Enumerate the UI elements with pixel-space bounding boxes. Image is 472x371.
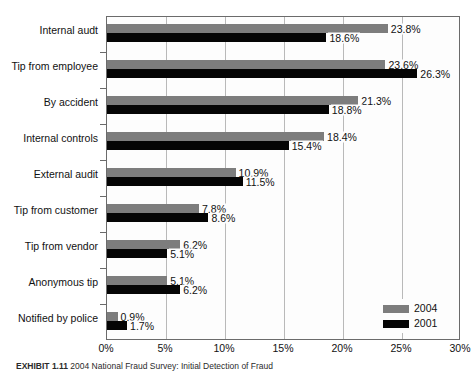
bar-value-label: 23.8% — [390, 23, 422, 34]
chart-legend: 20042001 — [379, 299, 449, 333]
legend-label-2001: 2001 — [414, 318, 437, 329]
legend-label-2004: 2004 — [414, 303, 437, 314]
bar-value-label: 11.5% — [245, 176, 276, 187]
bar-2004-4: 10.9% — [107, 168, 236, 177]
chart-category-group: 21.3%18.8% — [107, 89, 459, 125]
legend-item-2004: 2004 — [383, 302, 445, 315]
bar-2004-5: 7.8% — [107, 204, 199, 213]
category-label-7: Anonymous tip — [29, 276, 98, 288]
bar-2004-1: 23.6% — [107, 60, 385, 69]
x-axis-labels: 0%5%10%15%20%25%30% — [106, 342, 460, 356]
bar-value-label: 18.6% — [328, 32, 360, 43]
y-axis-tick — [100, 88, 106, 89]
caption-text: 2004 National Fraud Survey: Initial Dete… — [70, 361, 273, 371]
bar-value-label: 15.4% — [291, 140, 323, 151]
x-tick-label-4: 20% — [331, 342, 352, 354]
y-axis-labels: Internal audtTip from employeeBy acciden… — [0, 16, 102, 340]
category-label-4: External audit — [34, 168, 98, 180]
x-tick-label-5: 25% — [390, 342, 411, 354]
chart-category-group: 23.6%26.3% — [107, 53, 459, 89]
bar-value-label: 8.6% — [210, 212, 236, 223]
y-axis-tick — [100, 268, 106, 269]
bar-value-label: 21.3% — [360, 95, 392, 106]
bar-2001-0: 18.6% — [107, 33, 326, 42]
chart-category-group: 6.2%5.1% — [107, 233, 459, 269]
y-axis-tick — [100, 52, 106, 53]
bar-2004-2: 21.3% — [107, 96, 358, 105]
category-label-1: Tip from employee — [11, 60, 98, 72]
y-axis-tick — [100, 160, 106, 161]
category-label-3: Internal controls — [23, 132, 98, 144]
y-axis-tick — [100, 232, 106, 233]
legend-swatch-2001 — [383, 320, 409, 328]
caption-exhibit-label: EXHIBIT 1.11 — [16, 361, 68, 371]
bar-2001-1: 26.3% — [107, 69, 417, 78]
bar-value-label: 26.3% — [419, 68, 451, 79]
bar-2001-2: 18.8% — [107, 105, 329, 114]
chart-figure: Internal audtTip from employeeBy acciden… — [0, 0, 472, 371]
bar-2004-7: 5.1% — [107, 276, 167, 285]
bar-2001-8: 1.7% — [107, 321, 127, 330]
figure-caption: EXHIBIT 1.11 2004 National Fraud Survey:… — [16, 361, 472, 371]
bar-value-label: 18.4% — [326, 131, 358, 142]
bar-2001-7: 6.2% — [107, 285, 180, 294]
legend-swatch-2004 — [383, 305, 409, 313]
legend-item-2001: 2001 — [383, 317, 445, 330]
category-label-5: Tip from customer — [14, 204, 98, 216]
bar-value-label: 5.1% — [169, 248, 195, 259]
bar-2001-3: 15.4% — [107, 141, 289, 150]
bar-value-label: 6.2% — [182, 284, 208, 295]
y-axis-tick — [100, 196, 106, 197]
x-tick-label-0: 0% — [98, 342, 113, 354]
bar-2004-8: 0.9% — [107, 312, 118, 321]
chart-category-group: 7.8%8.6% — [107, 197, 459, 233]
bar-2001-5: 8.6% — [107, 213, 208, 222]
x-tick-label-1: 5% — [157, 342, 172, 354]
bar-value-label: 1.7% — [129, 320, 155, 331]
x-tick-label-6: 30% — [449, 342, 470, 354]
category-label-0: Internal audt — [40, 24, 98, 36]
y-axis-tick — [100, 304, 106, 305]
y-axis-tick — [100, 124, 106, 125]
chart-category-group: 18.4%15.4% — [107, 125, 459, 161]
plot-area: 23.8%18.6%23.6%26.3%21.3%18.8%18.4%15.4%… — [106, 16, 460, 340]
category-label-2: By accident — [44, 96, 98, 108]
bar-value-label: 18.8% — [331, 104, 363, 115]
x-tick-label-3: 15% — [272, 342, 293, 354]
chart-category-group: 23.8%18.6% — [107, 17, 459, 53]
category-label-8: Notified by police — [18, 312, 98, 324]
bar-2001-6: 5.1% — [107, 249, 167, 258]
category-label-6: Tip from vendor — [25, 240, 98, 252]
bar-2001-4: 11.5% — [107, 177, 243, 186]
x-tick-label-2: 10% — [213, 342, 234, 354]
chart-category-group: 10.9%11.5% — [107, 161, 459, 197]
